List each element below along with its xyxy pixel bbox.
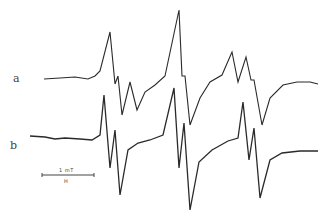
- spectrum-plot: [0, 0, 335, 220]
- trace-a-label: a: [13, 72, 20, 85]
- esr-spectrum-figure: a b 1 mT H: [0, 0, 335, 220]
- trace-a-line: [44, 10, 318, 125]
- trace-b-line: [30, 88, 318, 210]
- trace-b-label: b: [10, 139, 17, 152]
- scale-bar-value: 1 mT: [59, 167, 74, 173]
- field-axis-label: H: [64, 178, 68, 184]
